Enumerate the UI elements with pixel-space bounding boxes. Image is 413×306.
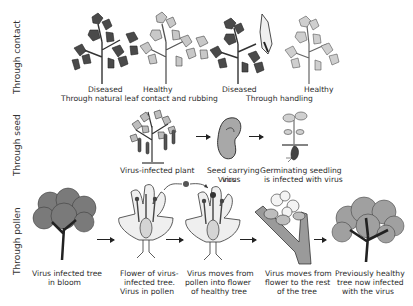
previously-healthy-tree-now-infected-illustration	[330, 196, 406, 262]
caption-virus-to-tree-1: Virus moves from	[265, 269, 332, 278]
caption-flower-infected-3: Virus in pollen	[120, 287, 174, 296]
caption-virus-infected-plant: Virus-infected plant	[120, 166, 194, 175]
caption-previously-healthy-2: tree now infected	[337, 278, 404, 287]
caption-seed-carrying-virus-1: Seed carrying	[207, 166, 260, 175]
caption-virus-into-flower-3: of healthy tree	[191, 287, 247, 296]
caption-tree-in-bloom-2: in bloom	[48, 278, 81, 287]
arrow-icon	[166, 239, 183, 240]
flower-of-healthy-tree-illustration	[183, 186, 243, 262]
caption-virus-to-tree-3: of the tree	[277, 287, 317, 296]
branch-with-flowers-illustration	[255, 192, 317, 264]
virus-infected-plant-illustration	[128, 106, 186, 164]
caption-contact-leaf-rubbing: Through natural leaf contact and rubbing	[61, 94, 218, 103]
row-label-contact: Through contact	[12, 20, 22, 94]
virus-annotation: Virus	[218, 176, 236, 185]
caption-virus-into-flower-1: Virus moves from	[187, 269, 254, 278]
caption-germinating-seedling-1: Germinating seedling	[260, 166, 342, 175]
caption-virus-into-flower-2: pollen into flower	[185, 278, 251, 287]
caption-previously-healthy-1: Previously healthy	[335, 269, 405, 278]
row-label-seed: Through seed	[12, 114, 22, 176]
arrow-icon	[240, 239, 256, 240]
arrow-icon	[196, 136, 210, 137]
caption-contact-healthy-2: Healthy	[304, 85, 333, 94]
caption-contact-diseased-1: Diseased	[88, 85, 123, 94]
caption-germinating-seedling-2: is infected with virus	[264, 175, 343, 184]
healthy-plant-illustration	[140, 12, 212, 84]
arrow-icon	[97, 239, 114, 240]
diseased-plant-illustration	[72, 12, 142, 84]
healthy-plant-handled-illustration	[285, 14, 347, 84]
diseased-plant-handled-illustration	[210, 14, 282, 84]
caption-contact-handling: Through handling	[246, 94, 313, 103]
flower-of-infected-tree-illustration	[117, 184, 175, 260]
caption-virus-to-tree-2: flower to the rest	[265, 278, 330, 287]
seed-illustration	[216, 116, 244, 160]
caption-contact-healthy-1: Healthy	[143, 85, 172, 94]
caption-flower-infected-1: Flower of virus-	[120, 269, 179, 278]
row-label-pollen: Through pollen	[12, 207, 22, 275]
caption-previously-healthy-3: with the virus	[342, 287, 394, 296]
arrow-icon	[249, 136, 263, 137]
caption-tree-in-bloom-1: Virus infected tree	[32, 269, 102, 278]
arrow-icon	[314, 239, 326, 240]
virus-infected-tree-illustration	[30, 190, 100, 260]
caption-contact-diseased-2: Diseased	[222, 85, 257, 94]
germinating-seedling-illustration	[280, 112, 310, 164]
caption-flower-infected-2: infected tree.	[124, 278, 175, 287]
